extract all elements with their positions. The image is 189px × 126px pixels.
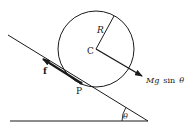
friction-arrow	[43, 59, 81, 83]
radius-label: R	[96, 25, 104, 35]
gravity-component-arrow	[96, 49, 142, 76]
contact-point-label: P	[76, 86, 82, 96]
incline-line	[8, 35, 148, 121]
angle-label: θ	[123, 112, 128, 121]
center-label: C	[87, 46, 94, 56]
incline-diagram: R C P f Mg sin θ θ	[0, 0, 189, 126]
friction-label: f	[43, 66, 48, 76]
gravity-component-label: Mg sin θ	[145, 76, 184, 85]
contact-point-dot	[79, 81, 82, 84]
